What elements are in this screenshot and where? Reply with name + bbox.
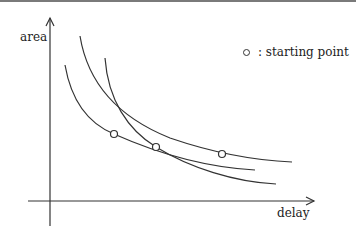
curve-3	[105, 58, 276, 184]
tradeoff-diagram	[0, 0, 356, 240]
starting-point-marker-icon	[219, 151, 226, 158]
y-axis-label: area	[20, 31, 47, 43]
starting-point-marker-icon	[153, 144, 160, 151]
starting-point-marker-icon	[111, 131, 118, 138]
legend-text: : starting point	[258, 46, 349, 58]
legend: : starting point	[243, 46, 349, 58]
open-circle-icon	[243, 49, 250, 56]
x-axis-label: delay	[277, 207, 310, 219]
